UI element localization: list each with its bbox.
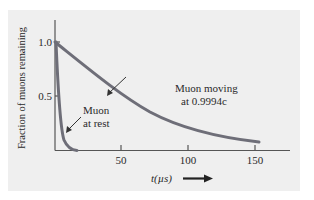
chart-svg: 1.0 0.5 50 100 150 Muon moving at 0.9994… — [0, 0, 314, 200]
x-axis-arrow-icon — [204, 175, 213, 183]
y-tick-label-1: 1.0 — [38, 36, 52, 48]
annotation-rest-line2: at rest — [83, 117, 110, 129]
x-tick-label-150: 150 — [247, 154, 264, 166]
annotation-rest-line1: Muon — [83, 104, 110, 116]
y-tick-label-05: 0.5 — [38, 90, 52, 102]
arrow-rest-line — [68, 117, 81, 130]
x-tick-label-100: 100 — [180, 154, 197, 166]
annotation-moving-line1: Muon moving — [175, 82, 238, 94]
x-axis-label: t(µs) — [151, 172, 172, 185]
annotation-moving-line2: at 0.9994c — [181, 95, 227, 107]
x-tick-label-50: 50 — [116, 154, 128, 166]
y-axis-label: Fraction of muons remaining — [16, 26, 27, 149]
